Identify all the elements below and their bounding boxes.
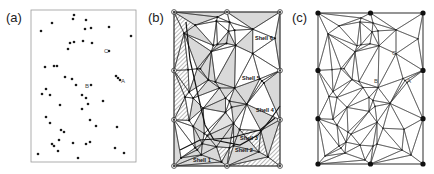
node xyxy=(246,103,248,105)
shell-1-label: Shell 1 xyxy=(193,157,211,163)
point xyxy=(59,104,62,107)
node xyxy=(239,128,241,130)
node xyxy=(230,106,232,108)
triangle-edge xyxy=(360,122,377,146)
node xyxy=(372,145,374,147)
triangle-edge xyxy=(370,32,379,46)
point xyxy=(102,100,105,103)
node xyxy=(410,154,412,156)
shell-4-label: Shell 4 xyxy=(256,107,275,113)
point xyxy=(72,18,75,21)
node xyxy=(374,106,376,108)
triangle-edge xyxy=(351,111,377,134)
point xyxy=(87,103,90,106)
point xyxy=(114,147,117,150)
node xyxy=(228,100,230,102)
triangle-edge xyxy=(373,100,390,106)
triangle-edge xyxy=(396,39,423,71)
node xyxy=(252,28,254,30)
node xyxy=(212,44,214,46)
triangle-edge xyxy=(411,119,423,164)
triangle-edge xyxy=(253,38,280,70)
node xyxy=(368,111,370,113)
point xyxy=(63,131,66,134)
node xyxy=(214,81,216,83)
point xyxy=(95,125,98,128)
node xyxy=(232,122,234,124)
node xyxy=(194,24,196,26)
boundary-node xyxy=(315,116,320,121)
point xyxy=(75,84,78,87)
node xyxy=(220,161,222,163)
point xyxy=(81,108,84,111)
point xyxy=(77,157,80,160)
node xyxy=(199,68,201,70)
node xyxy=(225,42,227,44)
node xyxy=(340,147,342,149)
triangle-edge xyxy=(371,150,412,164)
node xyxy=(215,146,217,148)
point xyxy=(73,14,76,17)
node xyxy=(368,97,370,99)
point xyxy=(90,84,93,87)
node xyxy=(382,127,384,129)
node xyxy=(377,30,379,32)
node xyxy=(376,121,378,123)
boundary-node xyxy=(315,161,320,166)
triangle-edge xyxy=(318,13,328,70)
node xyxy=(267,156,269,158)
boundary-node xyxy=(420,116,425,121)
node xyxy=(336,97,338,99)
point-label-c-a: A xyxy=(407,78,411,84)
node xyxy=(274,37,276,39)
panel-a-label: (a) xyxy=(6,10,22,25)
node xyxy=(196,68,198,70)
node xyxy=(228,21,230,23)
point xyxy=(85,143,88,146)
boundary-node xyxy=(315,10,320,15)
triangle-edge xyxy=(418,13,423,70)
triangle-edge xyxy=(318,70,333,96)
point xyxy=(85,97,88,100)
node xyxy=(389,103,391,105)
node xyxy=(351,79,353,81)
triangle-edge xyxy=(377,128,402,150)
node xyxy=(233,29,235,31)
panel-a-frame xyxy=(31,10,136,162)
node xyxy=(417,38,419,40)
point xyxy=(67,48,70,51)
triangle-edge xyxy=(318,13,339,34)
panel-c-edges xyxy=(318,13,423,164)
triangle-edge xyxy=(378,54,403,88)
point xyxy=(123,152,126,155)
point xyxy=(49,94,52,97)
shell-3-label: Shell 3 xyxy=(240,135,258,141)
node xyxy=(324,155,326,157)
node xyxy=(188,119,190,121)
triangle-edge xyxy=(373,23,396,31)
shell-triangle-fill xyxy=(236,29,253,53)
point-label-a: A xyxy=(121,78,125,84)
triangle-edge xyxy=(396,13,423,39)
shell-triangle-fill xyxy=(227,12,280,29)
node xyxy=(263,82,265,84)
point xyxy=(84,28,87,31)
point xyxy=(81,94,84,97)
node xyxy=(332,118,334,120)
panel-b: (b) Shell 6 Shell 5 Shell 4 Shell 3 Shel… xyxy=(148,10,282,169)
triangle-edge xyxy=(318,70,329,118)
point-label-c-c: C xyxy=(392,50,397,56)
node xyxy=(356,45,358,47)
node xyxy=(402,78,404,80)
triangle-edge xyxy=(355,46,379,82)
triangle-edge xyxy=(396,54,423,79)
node xyxy=(216,43,218,45)
triangle-edge xyxy=(341,52,355,69)
point xyxy=(64,76,67,79)
node xyxy=(227,30,229,32)
point xyxy=(89,141,92,144)
triangle-edge xyxy=(253,29,275,53)
shell-triangle-fill xyxy=(215,45,235,88)
point xyxy=(116,126,119,129)
node xyxy=(378,45,380,47)
